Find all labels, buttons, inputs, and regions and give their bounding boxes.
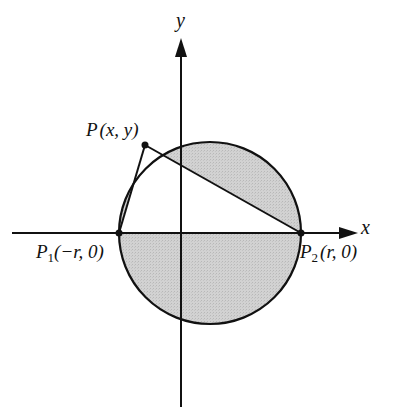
point-p bbox=[142, 142, 149, 149]
label-p1: P1(−r, 0) bbox=[35, 241, 104, 265]
circle-diagram: y x P(x, y) P1(−r, 0) P2(r, 0) bbox=[0, 0, 393, 413]
y-axis-arrow-icon bbox=[175, 38, 187, 57]
point-p2 bbox=[298, 230, 305, 237]
x-axis-label: x bbox=[360, 216, 370, 238]
label-p2: P2(r, 0) bbox=[299, 241, 357, 265]
point-p1 bbox=[116, 230, 123, 237]
y-axis-label: y bbox=[174, 9, 185, 32]
label-p: P(x, y) bbox=[85, 119, 139, 141]
x-axis-arrow-icon bbox=[339, 227, 358, 239]
